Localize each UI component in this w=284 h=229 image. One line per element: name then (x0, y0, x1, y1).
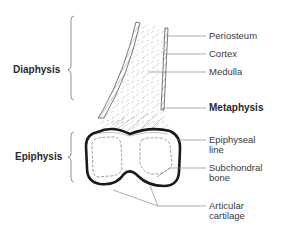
diaphysis-label: Diaphysis (13, 65, 60, 75)
diaphysis-brace (68, 16, 74, 100)
medulla-label: Medulla (209, 67, 242, 77)
cortex-label: Cortex (209, 49, 237, 59)
subchondral-bone-label: Subchondral bone (209, 163, 262, 183)
epiphyseal-line-label: Epiphyseal line (209, 135, 255, 155)
epiphyseal-line-label-2: line (209, 145, 255, 155)
articular-cartilage-label-2: cartilage (209, 211, 245, 221)
periosteum-label: Periosteum (209, 31, 257, 41)
subchondral-bone-label-2: bone (209, 173, 262, 183)
epiphysis-label: Epiphysis (15, 152, 62, 162)
articular-cartilage-label: Articular cartilage (209, 201, 245, 221)
metaphysis-label: Metaphysis (209, 103, 263, 113)
epiphysis-brace (68, 132, 74, 182)
